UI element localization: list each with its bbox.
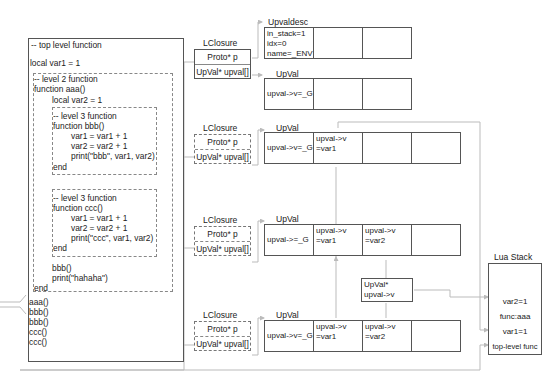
lclosure-box: Proto* p UpVal* upval[] (194, 134, 251, 164)
level2-call-bbb: bbb() (52, 263, 72, 273)
proto-field: Proto* p (195, 50, 250, 64)
level2-signature: function aaa() (34, 84, 85, 94)
ccc-end: end (53, 243, 67, 253)
lclosure-box: Proto* p UpVal* upval[] (194, 49, 251, 79)
upval-cell: upval->v=_G (264, 132, 314, 164)
bbb-body-line: var2 = var2 + 1 (71, 141, 127, 151)
upval-field: UpVal* upval[] (195, 241, 250, 255)
upval-cell: upval->v =var2 (362, 224, 412, 256)
ccc-body-line: var2 = var2 + 1 (71, 223, 127, 233)
top-call: bbb() (29, 317, 49, 327)
lua-stack-title: Lua Stack (494, 252, 532, 262)
proto-field: Proto* p (195, 135, 250, 149)
stack-slot: var1=1 (488, 324, 542, 340)
stack-slot (488, 264, 542, 280)
upval-cell (362, 132, 412, 164)
entry-arrow (0, 295, 26, 302)
level2-call-print: print("hahaha") (52, 273, 108, 283)
top-call: ccc() (29, 327, 47, 337)
bbb-body-line: var1 = var1 + 1 (71, 131, 127, 141)
upval-cell: upval->v=_G (264, 78, 314, 110)
level2-function-block (33, 73, 173, 292)
upval-cell: upval->v =var1 (313, 320, 363, 352)
upval-pointer-box: UpVal* upval->v (361, 278, 413, 302)
stack-slot: var2=1 (488, 294, 542, 310)
lclosure-title: LClosure (203, 310, 237, 320)
proto-field: Proto* p (195, 322, 250, 336)
top-call: bbb() (29, 307, 49, 317)
lclosure-box: Proto* p UpVal* upval[] (194, 321, 251, 351)
proto-field: Proto* p (195, 227, 250, 241)
stack-slot (488, 279, 542, 295)
upval-field: UpVal* upval[] (195, 64, 250, 78)
upvaldesc-title: Upvaldesc (268, 17, 308, 27)
upval-cell: upval->v =var1 (313, 224, 363, 256)
level2-local-var2: local var2 = 1 (52, 95, 102, 105)
lclosure-title: LClosure (203, 215, 237, 225)
upval-cell (411, 132, 461, 164)
ccc-body-line: print("ccc", var1, var2) (71, 233, 153, 243)
stack-slot: func:aaa (488, 309, 542, 325)
upval-field: UpVal* upval[] (195, 336, 250, 350)
upval-array-title: UpVal (276, 214, 299, 224)
upval-cell: upval->v =var2 (362, 320, 412, 352)
upvaldesc-cell: in_stack=1 idx=0 name=_ENV (264, 27, 314, 59)
level2-end: end (34, 283, 48, 293)
upval-cell (411, 224, 461, 256)
bbb-comment: -- level 3 function (53, 111, 117, 121)
upval-cell (362, 78, 412, 110)
bbb-signature: function bbb() (53, 121, 104, 131)
upval-field: UpVal* upval[] (195, 149, 250, 163)
stack-slot: top-level func (488, 339, 542, 355)
lclosure-title: LClosure (203, 38, 237, 48)
upvaldesc-cell (362, 27, 412, 59)
upval-cell: upval->v=_G (264, 320, 314, 352)
upval-array-title: UpVal (276, 310, 299, 320)
upval-cell (411, 320, 461, 352)
ccc-body-line: var1 = var1 + 1 (71, 213, 127, 223)
top-call: ccc() (29, 337, 47, 347)
ccc-comment: -- level 3 function (53, 193, 117, 203)
top-level-comment: -- top level function (31, 40, 102, 50)
upval-cell: upval->=_G (264, 224, 314, 256)
lclosure-box: Proto* p UpVal* upval[] (194, 226, 251, 256)
bbb-body-line: print("bbb", var1, var2) (71, 151, 155, 161)
upval-cell: upval->v =var1 (313, 132, 363, 164)
top-call: aaa() (29, 297, 49, 307)
level2-comment: -- level 2 function (34, 74, 98, 84)
upval-cell (313, 78, 363, 110)
ccc-signature: function ccc() (53, 203, 103, 213)
lclosure-title: LClosure (203, 123, 237, 133)
upvaldesc-cell (313, 27, 363, 59)
bbb-end: end (53, 162, 67, 172)
local-var1-line: local var1 = 1 (30, 58, 80, 68)
lua-stack: var2=1 func:aaa var1=1 top-level func (488, 263, 542, 356)
